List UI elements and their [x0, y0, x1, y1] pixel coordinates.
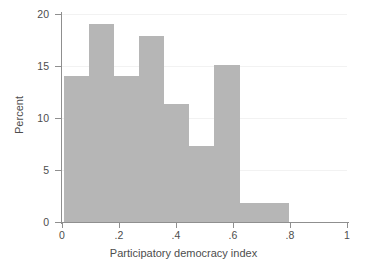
x-tick-label: .8	[270, 230, 310, 241]
histogram-bar	[164, 104, 189, 222]
y-tick-mark	[55, 170, 61, 171]
histogram-bar	[89, 24, 114, 222]
y-tick-mark	[55, 66, 61, 67]
x-tick-mark	[347, 223, 348, 228]
y-tick-mark	[55, 14, 61, 15]
histogram-bar	[64, 76, 89, 222]
y-tick-label: 0	[9, 217, 49, 227]
y-axis-title: Percent	[13, 55, 25, 175]
x-tick-mark	[176, 223, 177, 228]
x-tick-mark	[119, 223, 120, 228]
y-tick-mark	[55, 222, 61, 223]
histogram-bar	[214, 65, 239, 222]
histogram-bar	[114, 76, 139, 222]
x-tick-label: .6	[213, 230, 253, 241]
x-tick-mark	[233, 223, 234, 228]
histogram-chart: 05101520 0.2.4.6.81 Percent Participator…	[0, 0, 367, 271]
x-axis-line	[61, 222, 349, 223]
gridline-y-20	[62, 14, 347, 15]
x-tick-label: 1	[327, 230, 367, 241]
histogram-bar	[189, 146, 214, 222]
histogram-bar	[139, 36, 164, 222]
y-tick-mark	[55, 118, 61, 119]
histogram-bar	[240, 203, 290, 222]
x-tick-mark	[62, 223, 63, 228]
x-tick-label: .4	[156, 230, 196, 241]
y-tick-label: 20	[9, 9, 49, 19]
y-axis-line	[61, 12, 62, 224]
x-axis-title: Participatory democracy index	[0, 247, 367, 259]
x-tick-label: 0	[42, 230, 82, 241]
x-tick-mark	[290, 223, 291, 228]
x-tick-label: .2	[99, 230, 139, 241]
plot-area	[62, 14, 347, 222]
